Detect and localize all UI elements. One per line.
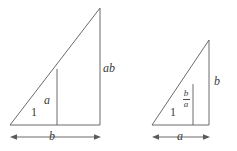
left-dimension-arrow-group (10, 134, 101, 140)
left-outer-height-label: ab (103, 62, 115, 74)
right-dimension-arrowhead-end (203, 134, 210, 140)
right-triangle-group (152, 40, 209, 125)
left-dimension-arrowhead-start (10, 134, 17, 140)
figure-root: 1 a ab b 1 b a b a (0, 0, 237, 151)
left-triangle-group (10, 8, 100, 125)
right-dimension-arrowhead-start (152, 134, 159, 140)
left-unit-base-label: 1 (31, 106, 37, 118)
diagram-canvas (0, 0, 237, 151)
right-triangle-outline (152, 40, 209, 125)
right-inner-height-fraction: b a (180, 89, 192, 110)
fraction-denominator: a (180, 100, 192, 109)
right-unit-base-label: 1 (170, 106, 176, 118)
right-base-dimension-label: a (177, 130, 183, 142)
left-triangle-outline (10, 8, 100, 125)
left-base-dimension-label: b (49, 130, 55, 142)
left-dimension-arrowhead-end (94, 134, 101, 140)
fraction-numerator: b (180, 89, 192, 98)
right-outer-height-label: b (214, 75, 220, 87)
left-inner-height-label: a (44, 94, 50, 106)
